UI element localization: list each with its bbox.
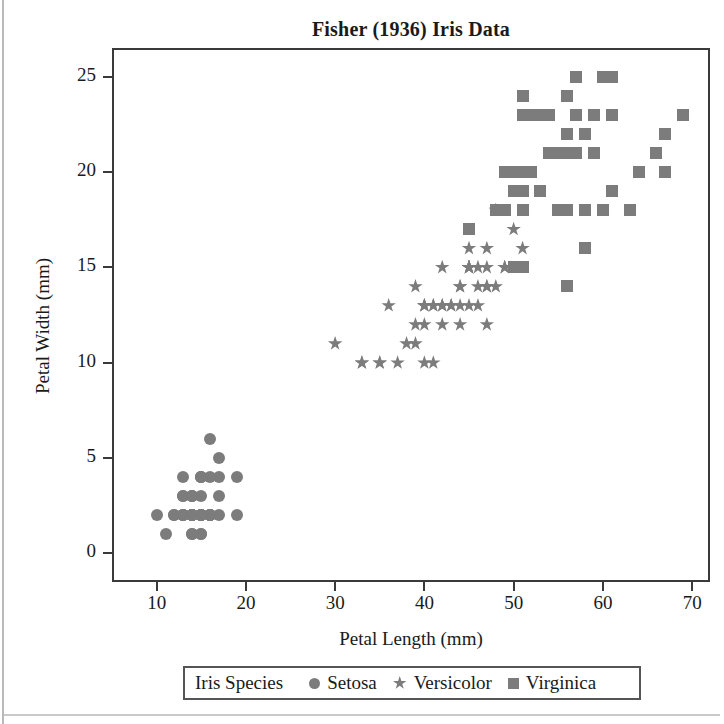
data-point-virginica xyxy=(570,109,582,121)
data-point-setosa xyxy=(195,490,207,502)
data-point-versicolor xyxy=(426,298,441,313)
data-point-setosa xyxy=(151,509,163,521)
x-tick-label-60: 60 xyxy=(578,592,628,614)
data-point-virginica xyxy=(517,261,529,273)
data-point-virginica xyxy=(543,147,555,159)
data-point-versicolor xyxy=(453,317,468,332)
data-point-virginica xyxy=(561,280,573,292)
data-point-virginica xyxy=(588,147,600,159)
legend-title: Iris Species xyxy=(195,672,283,694)
data-point-virginica xyxy=(606,185,618,197)
data-point-setosa xyxy=(195,528,207,540)
x-tick-50 xyxy=(513,582,515,591)
data-point-setosa xyxy=(160,528,172,540)
y-tick-20 xyxy=(103,171,112,173)
data-point-versicolor xyxy=(462,260,477,275)
data-point-virginica xyxy=(525,166,537,178)
data-point-setosa xyxy=(186,509,198,521)
data-point-virginica xyxy=(597,71,609,83)
data-point-versicolor xyxy=(488,279,503,294)
data-point-versicolor xyxy=(470,279,485,294)
legend-entry-setosa[interactable]: Setosa xyxy=(309,672,377,694)
x-tick-60 xyxy=(602,582,604,591)
x-tick-30 xyxy=(334,582,336,591)
data-point-setosa xyxy=(213,452,225,464)
y-tick-10 xyxy=(103,362,112,364)
y-tick-label-25: 25 xyxy=(50,64,96,86)
legend-entry-list: SetosaVersicolorVirginica xyxy=(309,672,596,694)
data-point-setosa xyxy=(177,509,189,521)
data-point-setosa xyxy=(195,509,207,521)
data-point-virginica xyxy=(659,128,671,140)
data-point-virginica xyxy=(570,147,582,159)
legend-entry-virginica[interactable]: Virginica xyxy=(508,672,596,694)
data-point-virginica xyxy=(490,204,502,216)
data-point-versicolor xyxy=(488,203,503,218)
data-point-setosa xyxy=(204,509,216,521)
y-tick-label-10: 10 xyxy=(50,350,96,372)
data-point-versicolor xyxy=(479,279,494,294)
data-point-setosa xyxy=(195,509,207,521)
x-tick-label-20: 20 xyxy=(221,592,271,614)
data-point-virginica xyxy=(552,204,564,216)
y-tick-15 xyxy=(103,266,112,268)
data-point-setosa xyxy=(204,509,216,521)
data-point-setosa xyxy=(186,509,198,521)
data-point-setosa xyxy=(177,509,189,521)
data-point-setosa xyxy=(186,509,198,521)
data-point-virginica xyxy=(543,109,555,121)
data-point-versicolor xyxy=(435,317,450,332)
y-tick-25 xyxy=(103,76,112,78)
data-point-versicolor xyxy=(462,260,477,275)
data-point-virginica xyxy=(499,166,511,178)
data-point-setosa xyxy=(204,509,216,521)
data-point-setosa xyxy=(204,509,216,521)
data-point-virginica xyxy=(517,185,529,197)
data-point-versicolor xyxy=(417,298,432,313)
data-point-versicolor xyxy=(497,260,512,275)
data-point-virginica xyxy=(508,185,520,197)
y-tick-label-15: 15 xyxy=(50,254,96,276)
data-point-versicolor xyxy=(408,317,423,332)
data-point-setosa xyxy=(168,509,180,521)
data-point-virginica xyxy=(499,204,511,216)
data-point-versicolor xyxy=(479,241,494,256)
data-point-setosa xyxy=(195,509,207,521)
data-point-versicolor xyxy=(453,298,468,313)
data-point-virginica xyxy=(517,166,529,178)
data-point-virginica xyxy=(508,261,520,273)
data-point-virginica xyxy=(552,147,564,159)
data-point-versicolor xyxy=(408,336,423,351)
data-point-versicolor xyxy=(354,355,369,370)
data-point-setosa xyxy=(213,471,225,483)
page-bottom-rule xyxy=(4,714,720,716)
y-tick-5 xyxy=(103,457,112,459)
data-point-versicolor xyxy=(479,260,494,275)
data-point-virginica xyxy=(650,147,662,159)
data-point-versicolor xyxy=(462,260,477,275)
data-point-setosa xyxy=(186,528,198,540)
x-tick-40 xyxy=(423,582,425,591)
data-point-virginica xyxy=(570,71,582,83)
data-point-setosa xyxy=(204,471,216,483)
data-point-versicolor xyxy=(417,317,432,332)
star-marker-icon xyxy=(393,676,407,690)
legend-label-versicolor: Versicolor xyxy=(414,672,492,694)
legend-entry-versicolor[interactable]: Versicolor xyxy=(393,672,492,694)
data-point-virginica xyxy=(490,204,502,216)
data-point-virginica xyxy=(534,185,546,197)
data-point-virginica xyxy=(588,109,600,121)
data-point-setosa xyxy=(186,509,198,521)
x-tick-20 xyxy=(245,582,247,591)
data-point-setosa xyxy=(168,509,180,521)
data-point-versicolor xyxy=(453,279,468,294)
x-axis-title: Petal Length (mm) xyxy=(112,628,710,650)
data-point-setosa xyxy=(186,509,198,521)
square-marker-icon xyxy=(508,678,519,689)
data-point-virginica xyxy=(561,204,573,216)
data-point-versicolor xyxy=(372,355,387,370)
data-point-virginica xyxy=(463,223,475,235)
data-point-setosa xyxy=(204,509,216,521)
data-point-virginica xyxy=(633,166,645,178)
data-point-setosa xyxy=(231,471,243,483)
